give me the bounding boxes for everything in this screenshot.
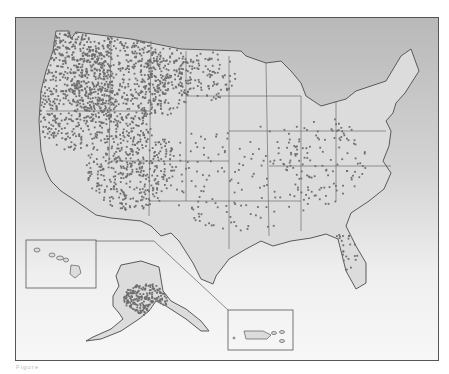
- hawaii-inset-frame: [26, 240, 96, 288]
- alaska-inset: [86, 261, 209, 341]
- hawaii-islands: [34, 248, 81, 278]
- us-dot-density-map: [16, 18, 440, 362]
- alaska-outline: [86, 261, 209, 341]
- figure-caption: Figure: [16, 364, 39, 370]
- map-frame: [15, 17, 439, 361]
- puerto-rico-islands: [233, 331, 285, 343]
- puerto-rico-inset-frame: [228, 310, 293, 350]
